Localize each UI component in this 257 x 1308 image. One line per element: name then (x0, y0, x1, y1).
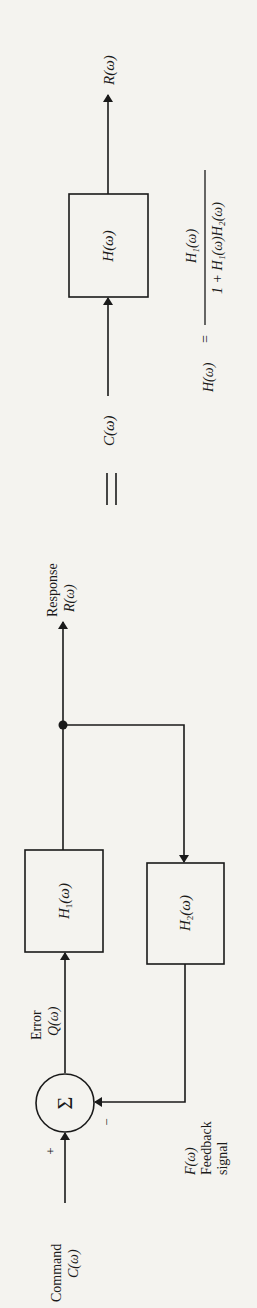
formula-equals: = (198, 335, 213, 343)
sigma-symbol: Σ (52, 1097, 77, 1110)
feedback-label-line2: signal (215, 1141, 230, 1175)
feedback-system: Response R(ω) H1(ω) H2(ω) Error Q(ω) Σ +… (25, 563, 230, 1302)
feedback-label-line1: Feedback (199, 1121, 214, 1175)
command-signal-label: C(ω) (66, 1249, 82, 1278)
forward-block-label: H1(ω) (56, 883, 74, 920)
response-signal-label: R(ω) (62, 584, 78, 613)
feedback-takeoff-path (63, 725, 184, 862)
output-signal-label: R(ω) (101, 55, 118, 86)
error-signal-label: Q(ω) (46, 1006, 62, 1036)
equivalence-sign (107, 473, 116, 505)
feedback-signal-label: F(ω) (183, 1147, 199, 1176)
equivalent-system: R(ω) H(ω) C(ω) H(ω) = H₁(ω) 1 + H₁(ω)H₂(… (69, 55, 226, 446)
response-label: Response (45, 563, 60, 617)
formula-numerator: H₁(ω) (184, 229, 200, 265)
formula-denominator: 1 + H₁(ω)H₂(ω) (210, 202, 226, 294)
feedback-return-path (95, 964, 185, 1102)
command-label: Command (49, 1244, 64, 1302)
diagram-svg: R(ω) H(ω) C(ω) H(ω) = H₁(ω) 1 + H₁(ω)H₂(… (0, 0, 257, 1308)
error-label: Error (29, 1010, 44, 1040)
diagram-canvas: R(ω) H(ω) C(ω) H(ω) = H₁(ω) 1 + H₁(ω)H₂(… (0, 0, 257, 1308)
input-signal-label: C(ω) (101, 415, 118, 446)
formula-lhs: H(ω) (201, 362, 217, 393)
feedback-block-label: H2(ω) (177, 895, 195, 932)
plus-sign: + (43, 1147, 58, 1154)
equivalent-block-label: H(ω) (100, 230, 117, 262)
minus-sign: − (99, 1118, 114, 1125)
